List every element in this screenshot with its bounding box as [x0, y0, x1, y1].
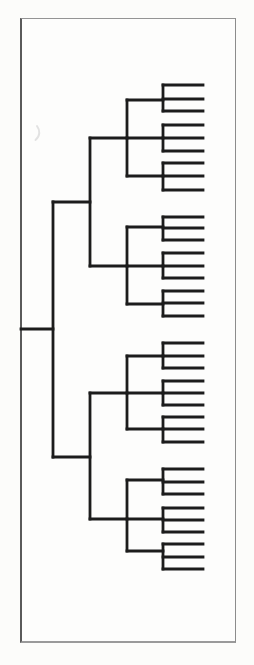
- scan-artifact-mark: [36, 126, 40, 140]
- dendrogram-figure: [0, 0, 254, 665]
- scanned-figure-page: [0, 0, 254, 665]
- dendrogram-branches: [21, 85, 203, 569]
